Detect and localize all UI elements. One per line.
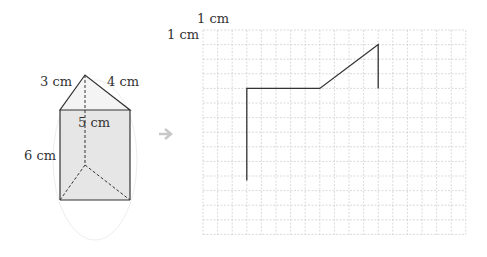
net-drawing — [247, 45, 378, 181]
label-edge-3cm: 3 cm — [40, 74, 72, 89]
label-edge-4cm: 4 cm — [107, 74, 139, 89]
label-height-6cm: 6 cm — [24, 148, 56, 163]
triangular-prism — [53, 75, 137, 240]
label-edge-5cm: 5 cm — [78, 115, 110, 130]
grid-unit-x-label: 1 cm — [197, 11, 229, 26]
grid-paper — [203, 30, 466, 234]
arrow-right-icon — [159, 129, 171, 139]
grid-unit-y-label: 1 cm — [167, 27, 199, 42]
diagram-canvas — [0, 0, 487, 257]
